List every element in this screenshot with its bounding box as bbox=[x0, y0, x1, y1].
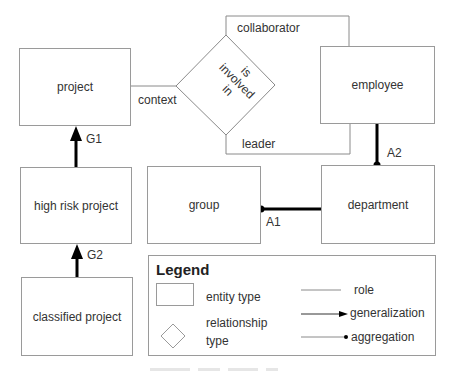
entity-label: classified project bbox=[33, 310, 122, 324]
entity-employee[interactable]: employee bbox=[320, 46, 435, 124]
entity-project[interactable]: project bbox=[19, 48, 131, 126]
aggregation-label-a1: A1 bbox=[266, 215, 281, 229]
entity-type-swatch-icon bbox=[156, 283, 194, 306]
generalization-label-g2: G2 bbox=[87, 248, 103, 262]
entity-label: employee bbox=[351, 78, 403, 92]
role-label-leader: leader bbox=[242, 137, 275, 151]
generalization-arrow-icon bbox=[339, 311, 348, 317]
legend-role: role bbox=[354, 283, 374, 297]
generalization-label-g1: G1 bbox=[86, 132, 102, 146]
g2-arrow-head-icon bbox=[71, 244, 83, 259]
legend-title: Legend bbox=[156, 261, 209, 278]
legend: Legend entity type relationship type rol… bbox=[148, 255, 436, 356]
entity-group[interactable]: group bbox=[147, 166, 261, 244]
cropped-caption-strip bbox=[150, 362, 320, 376]
entity-department[interactable]: department bbox=[321, 165, 435, 244]
aggregation-label-a2: A2 bbox=[387, 146, 402, 160]
relationship-type-swatch-icon bbox=[160, 323, 186, 349]
entity-label: high risk project bbox=[34, 199, 118, 213]
legend-entity-type: entity type bbox=[206, 290, 261, 304]
legend-relationship-type: relationship type bbox=[206, 316, 267, 348]
entity-label: project bbox=[57, 80, 93, 94]
entity-high-risk-project[interactable]: high risk project bbox=[20, 167, 132, 244]
figure-caption-cropped bbox=[150, 362, 320, 376]
g1-arrow-head-icon bbox=[70, 126, 82, 141]
entity-label: department bbox=[348, 198, 409, 212]
entity-label: group bbox=[189, 198, 220, 212]
legend-relationship-line: type bbox=[206, 334, 267, 348]
entity-classified-project[interactable]: classified project bbox=[21, 277, 133, 356]
legend-line-samples bbox=[299, 276, 354, 346]
legend-relationship-line: relationship bbox=[206, 316, 267, 330]
role-label-collaborator: collaborator bbox=[237, 21, 300, 35]
legend-aggregation: aggregation bbox=[351, 330, 414, 344]
aggregation-dot-icon bbox=[344, 335, 348, 339]
role-label-context: context bbox=[138, 93, 177, 107]
legend-generalization: generalization bbox=[350, 306, 425, 320]
